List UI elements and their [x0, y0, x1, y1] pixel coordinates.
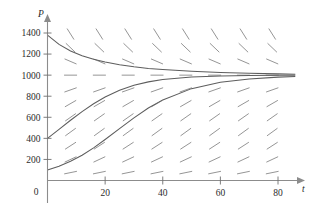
slope-segment: [180, 157, 192, 163]
y-tick-label: 400: [26, 134, 41, 144]
slope-segment: [152, 114, 163, 121]
slope-segment: [208, 171, 221, 174]
slope-segment: [123, 142, 134, 149]
slope-segment: [152, 43, 161, 52]
slope-segment: [64, 171, 77, 174]
slope-segment: [152, 142, 163, 149]
slope-segment: [151, 171, 164, 174]
slope-segment: [180, 100, 191, 106]
y-tick-label: 1400: [22, 28, 41, 38]
y-axis-label: P: [37, 9, 44, 19]
slope-segment: [151, 157, 163, 163]
slope-segment: [67, 29, 74, 40]
slope-segment: [238, 142, 249, 149]
slope-segment: [209, 142, 220, 149]
slope-segment: [211, 29, 218, 40]
slope-segment: [240, 29, 247, 40]
slope-segment: [238, 157, 250, 163]
slope-segment: [95, 43, 104, 52]
solution-curve: [48, 75, 296, 138]
x-tick-label: 80: [273, 188, 283, 198]
slope-segment: [151, 88, 163, 92]
slope-segment: [65, 142, 76, 149]
slope-segment: [238, 128, 249, 136]
slope-segment: [210, 43, 219, 52]
x-tick-label: 60: [216, 188, 226, 198]
y-axis-arrowhead: [44, 14, 51, 22]
slope-segment: [267, 114, 278, 121]
slope-segment: [93, 88, 105, 92]
slope-segment: [266, 157, 278, 163]
slope-segment: [238, 114, 249, 121]
slope-segment: [122, 171, 135, 174]
slope-segment: [123, 100, 134, 106]
direction-field-figure: 200400600800100012001400 20406080 P t 0: [0, 0, 314, 218]
slope-segment: [180, 114, 191, 121]
solution-curve: [48, 76, 296, 170]
slope-field-group: [64, 29, 279, 174]
slope-segment: [180, 142, 191, 149]
x-tick-labels-group: 20406080: [100, 188, 283, 198]
slope-segment: [209, 157, 221, 163]
slope-segment: [122, 59, 134, 64]
slope-segment: [154, 29, 161, 40]
plot-canvas: 200400600800100012001400 20406080 P t 0: [0, 0, 314, 218]
slope-segment: [239, 43, 248, 52]
slope-segment: [181, 128, 192, 136]
slope-segment: [209, 114, 220, 121]
slope-segment: [123, 128, 134, 136]
slope-segment: [266, 171, 279, 174]
slope-segment: [64, 88, 76, 92]
slope-segment: [93, 157, 105, 163]
solution-curve: [48, 35, 296, 74]
x-axis-label: t: [302, 184, 305, 194]
slope-segment: [182, 29, 189, 40]
x-tick-label: 40: [158, 188, 168, 198]
slope-segment: [268, 43, 277, 52]
slope-segment: [94, 100, 105, 106]
y-tick-label: 600: [26, 113, 41, 123]
y-tick-label: 1200: [22, 49, 41, 59]
slope-segment: [96, 29, 103, 40]
slope-segment: [237, 88, 249, 92]
slope-segment: [209, 128, 220, 136]
x-tick-label: 20: [100, 188, 110, 198]
slope-segment: [152, 128, 163, 136]
slope-segment: [208, 88, 220, 92]
slope-segment: [238, 100, 249, 106]
slope-segment: [209, 100, 220, 106]
slope-segment: [237, 171, 250, 174]
slope-segment: [267, 128, 278, 136]
axes-group: [44, 14, 305, 203]
slope-segment: [94, 128, 105, 136]
slope-segment: [267, 142, 278, 149]
slope-segment: [209, 59, 221, 64]
x-axis-arrowhead: [297, 177, 305, 184]
solution-curves-group: [48, 35, 296, 170]
slope-segment: [65, 100, 76, 106]
slope-segment: [125, 29, 132, 40]
slope-segment: [266, 88, 278, 92]
slope-segment: [237, 59, 249, 64]
slope-segment: [266, 59, 278, 64]
y-tick-label: 200: [26, 155, 41, 165]
slope-segment: [267, 100, 278, 106]
slope-segment: [181, 43, 190, 52]
slope-segment: [123, 43, 132, 52]
origin-label: 0: [34, 187, 39, 197]
slope-segment: [65, 128, 76, 136]
slope-segment: [151, 59, 163, 64]
y-tick-label: 1000: [22, 71, 41, 81]
y-tick-label: 800: [26, 92, 41, 102]
slope-segment: [180, 59, 192, 64]
slope-segment: [65, 59, 77, 64]
slope-segment: [94, 114, 105, 121]
slope-segment: [179, 171, 192, 174]
y-tick-labels-group: 200400600800100012001400: [22, 28, 41, 164]
slope-segment: [269, 29, 276, 40]
slope-segment: [122, 157, 134, 163]
slope-segment: [93, 171, 106, 174]
